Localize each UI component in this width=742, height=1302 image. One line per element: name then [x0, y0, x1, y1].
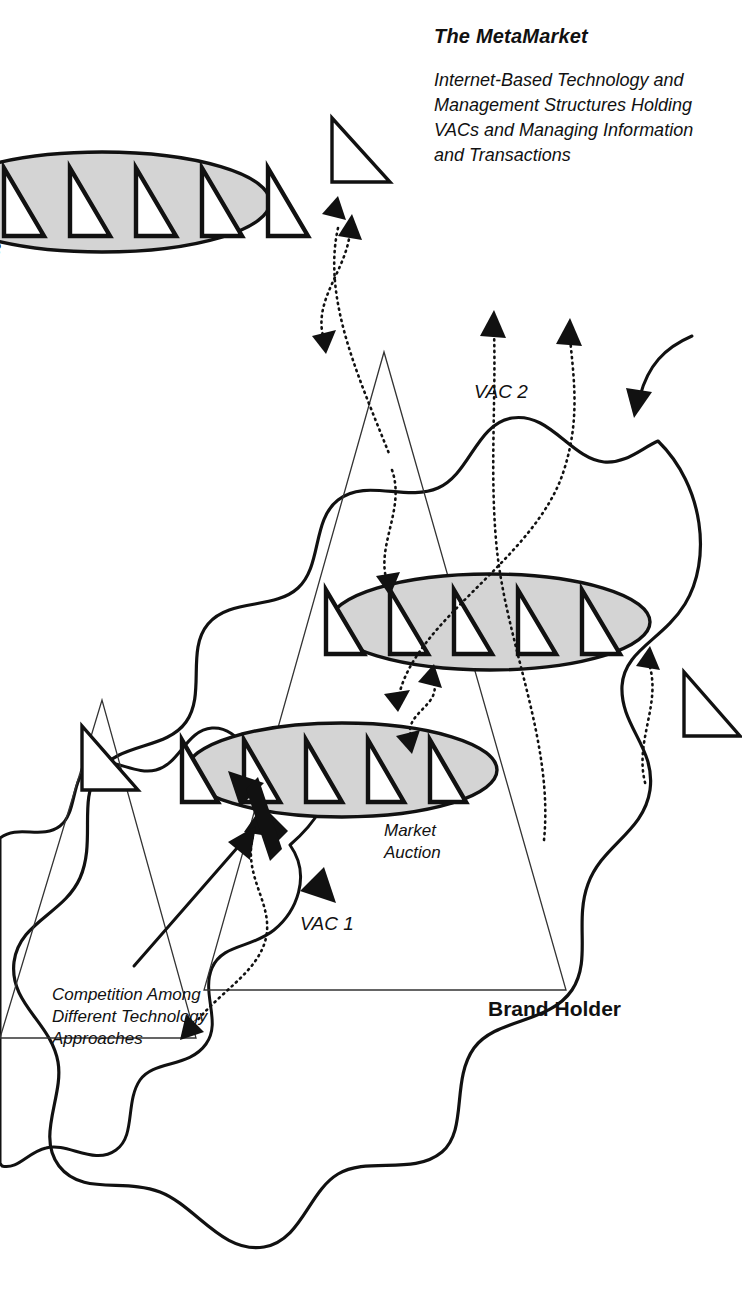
vac1-label: VAC 1	[300, 913, 354, 934]
vac3-triangle-5	[268, 168, 308, 236]
diagram-subtitle-line-2: Management Structures Holding	[434, 95, 692, 115]
arrowhead-external-left	[322, 196, 346, 220]
brand-holder-label: Brand Holder	[488, 997, 621, 1020]
diagram-title: The MetaMarket	[434, 25, 589, 47]
competition-arrow	[134, 826, 256, 966]
external-triangle-bottom	[82, 726, 138, 790]
external-triangle-top	[332, 118, 390, 182]
competition-label-line-1: Competition Among	[52, 985, 201, 1004]
diagram-subtitle-line-4: and Transactions	[434, 145, 571, 165]
vac2-label: VAC 2	[474, 381, 528, 402]
market-auction-label-line-1: Market	[384, 821, 437, 840]
vac-cluster-3	[0, 152, 308, 252]
vac-cluster-2	[326, 574, 650, 670]
competition-label-line-3: Approaches	[51, 1029, 143, 1048]
arrowhead-vac3-lower	[556, 318, 582, 346]
market-auction-label-line-2: Auction	[383, 843, 441, 862]
arrowhead-vac1-upper	[384, 690, 410, 712]
competition-arrow-shaft	[134, 840, 244, 966]
diagram-subtitle-line-1: Internet-Based Technology and	[434, 70, 685, 90]
metamarket-diagram: VAC 3 VAC 2 VAC 1	[0, 0, 742, 1302]
vac-cluster-1	[182, 723, 497, 817]
title-pointer-curve	[640, 336, 692, 396]
arrowhead-vac3-in-top	[312, 330, 336, 354]
metamarket-boundary-blob	[14, 417, 701, 1247]
arrowhead-vac3-middle	[480, 310, 506, 338]
rotated-diagram-wrapper: VAC 3 VAC 2 VAC 1	[0, 0, 742, 1302]
external-triangle-middle	[684, 672, 740, 736]
diagram-canvas: VAC 3 VAC 2 VAC 1	[0, 0, 742, 1302]
title-pointer-arrow	[626, 336, 692, 418]
flow-into-vac2-bottom	[384, 470, 395, 584]
competition-label-line-2: Different Technology	[52, 1007, 209, 1026]
title-pointer-head	[626, 388, 652, 418]
diagram-subtitle-line-3: VACs and Managing Information	[434, 120, 693, 140]
